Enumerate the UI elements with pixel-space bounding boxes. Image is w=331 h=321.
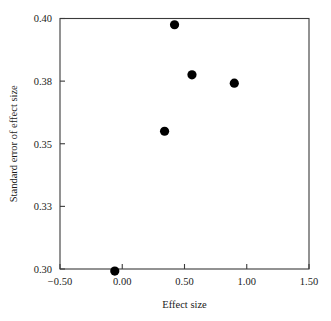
x-tick-label: −0.50: [48, 276, 72, 287]
data-point: [110, 266, 119, 275]
y-tick-label: 0.30: [34, 264, 52, 275]
data-point: [230, 79, 239, 88]
data-point: [170, 20, 179, 29]
x-tick-label: 0.00: [113, 276, 131, 287]
x-tick-label: 1.50: [300, 276, 318, 287]
data-point: [160, 127, 169, 136]
data-point: [187, 70, 196, 79]
x-tick-label: 0.50: [175, 276, 193, 287]
y-tick-label: 0.35: [34, 139, 52, 150]
y-tick-label: 0.38: [34, 76, 52, 87]
scatter-plot-canvas: −0.500.000.501.001.50 0.300.330.350.380.…: [0, 0, 331, 321]
y-axis-title: Standard error of effect size: [8, 85, 19, 202]
y-tick-label: 0.33: [34, 201, 52, 212]
x-axis-title: Effect size: [162, 299, 207, 310]
funnel-plot-figure: −0.500.000.501.001.50 0.300.330.350.380.…: [0, 0, 331, 321]
y-tick-label: 0.40: [34, 13, 52, 24]
x-tick-label: 1.00: [238, 276, 256, 287]
